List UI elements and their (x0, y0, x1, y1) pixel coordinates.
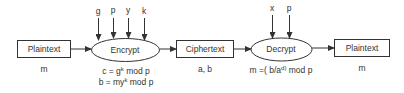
ciphertext-variables: a, b (198, 64, 212, 74)
input-x-label: x (270, 3, 274, 13)
input-p-decrypt-label: p (287, 3, 292, 13)
formula-c-mod: mod p (124, 66, 150, 76)
formula-m-mod: mod p (286, 65, 312, 75)
encrypt-label: Encrypt (111, 45, 140, 55)
formula-m-base: m =( b/a (250, 65, 281, 75)
input-p-label: p (111, 5, 116, 15)
input-k-label: k (142, 6, 146, 16)
plaintext-in-variable: m (40, 64, 47, 74)
elgamal-diagram: Plaintext Encrypt Ciphertext Decrypt Pla… (0, 0, 404, 93)
decrypt-formula: m =( b/ad) mod p (250, 65, 313, 75)
plaintext-out-label: Plaintext (346, 43, 379, 53)
input-g-label: g (96, 6, 101, 16)
decrypt-label: Decrypt (266, 44, 295, 54)
plaintext-in-label: Plaintext (28, 44, 61, 54)
encrypt-formula-c: c = gk mod p (102, 66, 150, 76)
formula-b-mod: mod p (127, 77, 153, 87)
encrypt-formula-b: b = myk mod p (99, 77, 154, 87)
ciphertext-label: Ciphertext (186, 44, 225, 54)
plaintext-out-variable: m (358, 63, 365, 73)
formula-b-base: b = my (99, 77, 125, 87)
input-y-label: y (126, 5, 130, 15)
formula-c-base: c = g (102, 66, 121, 76)
